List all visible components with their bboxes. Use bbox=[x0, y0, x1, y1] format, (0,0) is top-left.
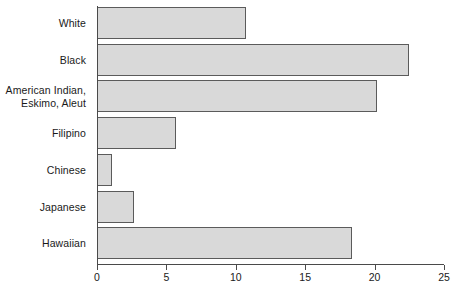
bar-category-label: American Indian, Eskimo, Aleut bbox=[6, 84, 86, 109]
bar-row: Japanese bbox=[0, 191, 455, 223]
bar-row: Chinese bbox=[0, 154, 455, 186]
bar-rect bbox=[97, 44, 409, 76]
x-axis-tick-mark bbox=[236, 265, 237, 270]
bar-rect bbox=[97, 154, 112, 186]
bar-row: White bbox=[0, 7, 455, 39]
x-axis-tick-mark bbox=[166, 265, 167, 270]
bar-chart: WhiteBlackAmerican Indian, Eskimo, Aleut… bbox=[0, 0, 455, 292]
bar-rect bbox=[97, 117, 176, 149]
bar-row: Black bbox=[0, 44, 455, 76]
x-axis-tick-label: 25 bbox=[438, 271, 450, 283]
bar-row: American Indian, Eskimo, Aleut bbox=[0, 80, 455, 112]
y-axis-line bbox=[97, 6, 98, 265]
bar-category-label: Black bbox=[60, 53, 86, 66]
bar-category-label: Hawaiian bbox=[42, 237, 86, 250]
x-axis-tick-label: 0 bbox=[94, 271, 100, 283]
bar-category-label: Japanese bbox=[40, 200, 86, 213]
bar-category-label: Filipino bbox=[52, 127, 86, 140]
x-axis-tick-label: 10 bbox=[230, 271, 242, 283]
x-axis-tick-mark bbox=[375, 265, 376, 270]
x-axis-line bbox=[97, 264, 444, 265]
bar-rect bbox=[97, 227, 352, 259]
x-axis-tick-mark bbox=[444, 265, 445, 270]
bar-rows: WhiteBlackAmerican Indian, Eskimo, Aleut… bbox=[0, 0, 455, 265]
x-axis-tick-mark bbox=[305, 265, 306, 270]
x-axis-tick-label: 20 bbox=[369, 271, 381, 283]
bar-rect bbox=[97, 7, 246, 39]
bar-row: Hawaiian bbox=[0, 227, 455, 259]
bar-rect bbox=[97, 191, 134, 223]
bar-category-label: White bbox=[59, 17, 86, 30]
bar-rect bbox=[97, 80, 377, 112]
bar-row: Filipino bbox=[0, 117, 455, 149]
bar-category-label: Chinese bbox=[47, 164, 86, 177]
x-axis-tick-label: 5 bbox=[163, 271, 169, 283]
x-axis-tick-mark bbox=[97, 265, 98, 270]
x-axis-tick-label: 15 bbox=[299, 271, 311, 283]
